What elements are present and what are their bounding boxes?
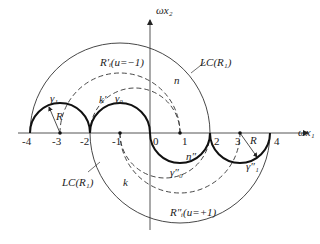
label-R-left: R (56, 110, 63, 122)
tick: -2 (80, 135, 89, 147)
label-gamma1-pp: γ″₁ (246, 160, 259, 172)
tick: -3 (52, 135, 61, 147)
tick: 3 (235, 135, 241, 147)
label-lc-top: LC(R₁) (200, 56, 231, 68)
label-R-right: R (250, 134, 257, 146)
x-axis-label: ωx₁ (298, 126, 314, 138)
tick: 0 (153, 135, 159, 147)
label-gamma0-pp: γ″₀ (170, 166, 183, 178)
tick: 1 (182, 135, 188, 147)
label-lc-bottom: LC(R₁) (62, 176, 93, 188)
tick: 2 (214, 135, 220, 147)
y-axis-label: ωx₂ (156, 4, 172, 16)
tick: 4 (274, 135, 280, 147)
label-gamma1: γ₁ (50, 92, 58, 104)
tick: -4 (22, 135, 31, 147)
tick: -1 (112, 135, 121, 147)
label-n: n (174, 74, 180, 86)
label-r-bottom: R″ᵢ(u=+1) (170, 206, 216, 218)
label-r-top: R′ᵢ(u=−1) (100, 56, 144, 68)
diagram-canvas (0, 0, 320, 244)
label-k-prime: k′ (99, 93, 106, 105)
label-n-pp: n″ (186, 150, 196, 162)
label-gamma0: γ₀ (115, 92, 123, 104)
label-k: k (123, 176, 128, 188)
phase-plane-diagram: ωx₂ ωx₁ -4 -3 -2 -1 0 1 2 3 4 LC(R₁) LC(… (0, 0, 320, 244)
